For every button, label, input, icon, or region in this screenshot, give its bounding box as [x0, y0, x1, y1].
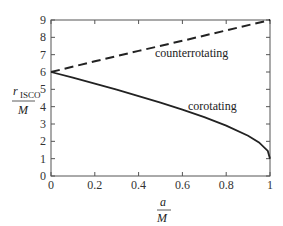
- y-axis-label-num: r: [13, 84, 18, 98]
- y-axis-label-sub: ISCO: [20, 90, 41, 100]
- chart: 00.20.40.60.810123456789 counterrotating…: [0, 0, 283, 226]
- x-tick-label: 0.6: [175, 178, 190, 192]
- x-axis-label-num: a: [160, 195, 166, 209]
- counterrotating-label: counterrotating: [155, 46, 228, 60]
- x-tick-label: 0.2: [87, 178, 102, 192]
- y-tick-label: 4: [40, 100, 46, 114]
- x-tick-label: 0.8: [219, 178, 234, 192]
- corotating-line: [51, 72, 270, 159]
- y-tick-label: 3: [40, 117, 46, 131]
- y-tick-label: 5: [40, 82, 46, 96]
- y-tick-label: 7: [40, 48, 46, 62]
- y-tick-label: 8: [40, 30, 46, 44]
- y-tick-label: 1: [40, 152, 46, 166]
- y-tick-label: 6: [40, 65, 46, 79]
- plot-frame: [51, 20, 270, 176]
- x-axis-label-den: M: [156, 211, 168, 225]
- x-tick-label: 0: [48, 178, 54, 192]
- corotating-label: corotating: [188, 99, 237, 113]
- y-tick-label: 2: [40, 134, 46, 148]
- axis-ticks: 00.20.40.60.810123456789: [40, 13, 273, 192]
- y-tick-label: 9: [40, 13, 46, 27]
- y-axis-label-den: M: [17, 103, 29, 117]
- x-tick-label: 0.4: [131, 178, 146, 192]
- y-tick-label: 0: [40, 169, 46, 183]
- x-tick-label: 1: [267, 178, 273, 192]
